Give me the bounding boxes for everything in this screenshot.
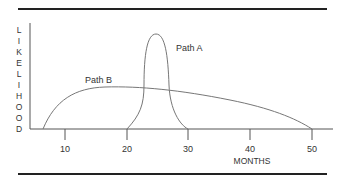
x-tick-label: 20 bbox=[122, 144, 132, 154]
x-ticks bbox=[65, 129, 312, 140]
svg-text:O: O bbox=[16, 102, 23, 112]
svg-text:E: E bbox=[16, 58, 22, 68]
svg-text:I: I bbox=[18, 80, 20, 90]
svg-text:D: D bbox=[16, 124, 22, 134]
x-tick-label: 30 bbox=[183, 144, 193, 154]
svg-text:I: I bbox=[18, 36, 20, 46]
svg-text:K: K bbox=[16, 47, 22, 57]
path-a-label: Path A bbox=[176, 43, 203, 53]
x-tick-label: 40 bbox=[245, 144, 255, 154]
chart: 10 20 30 40 50 MONTHS L I K E L I H O O … bbox=[0, 0, 346, 181]
x-tick-label: 10 bbox=[60, 144, 70, 154]
series-path-b bbox=[43, 87, 312, 129]
x-tick-label: 50 bbox=[307, 144, 317, 154]
svg-text:L: L bbox=[17, 69, 22, 79]
svg-text:O: O bbox=[16, 113, 23, 123]
path-b-label: Path B bbox=[85, 75, 112, 85]
svg-text:L: L bbox=[17, 25, 22, 35]
svg-text:H: H bbox=[16, 91, 22, 101]
y-axis-title: L I K E L I H O O D bbox=[16, 25, 23, 134]
x-axis-title: MONTHS bbox=[234, 156, 271, 166]
